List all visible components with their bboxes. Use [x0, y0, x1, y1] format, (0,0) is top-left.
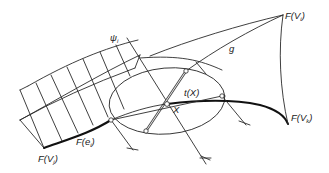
- label-tX: t(X): [184, 87, 199, 98]
- node-left: [109, 118, 113, 122]
- label-g: g: [229, 43, 235, 54]
- hatched-strip: [20, 40, 140, 148]
- label-X: X: [172, 104, 180, 115]
- label-F-Vj: F(Vj): [38, 153, 58, 165]
- node-X: [165, 102, 170, 107]
- node-bottom: [144, 129, 148, 133]
- diagram-canvas: F(Vi) F(Vk) F(Vj) F(ei) t(X) X ψi g: [0, 0, 329, 173]
- label-F-Vk: F(Vk): [291, 112, 312, 124]
- label-F-ei: F(ei): [76, 136, 95, 148]
- node-right: [220, 94, 224, 98]
- curve-g: [186, 15, 283, 71]
- node-top: [184, 69, 188, 73]
- label-F-Vi: F(Vi): [285, 10, 305, 22]
- label-psi-i: ψi: [110, 32, 119, 44]
